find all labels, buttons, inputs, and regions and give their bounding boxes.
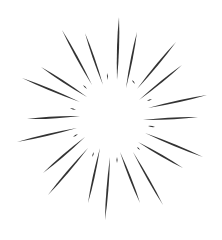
background xyxy=(0,0,222,240)
sunburst-illustration xyxy=(0,0,222,240)
